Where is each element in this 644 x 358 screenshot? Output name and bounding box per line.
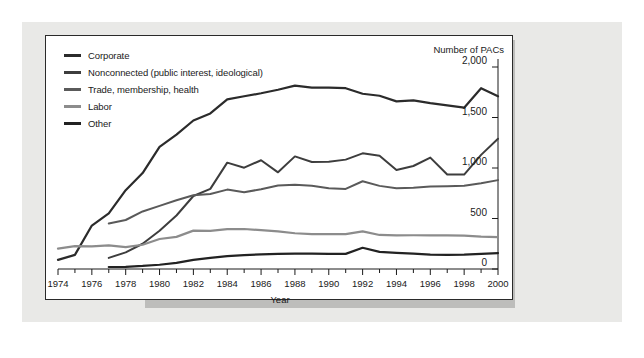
page-root: CorporateNonconnected (public interest, …	[0, 0, 644, 358]
legend-swatch-icon	[64, 71, 81, 74]
x-tick-label: 2000	[481, 278, 515, 289]
series-line-trade-membership-health	[109, 180, 498, 223]
y-tick-label: 2,000	[462, 55, 487, 66]
x-tick-label: 1994	[379, 278, 413, 289]
x-axis-title: Year	[46, 294, 514, 305]
legend-item-label: Labor	[88, 101, 112, 112]
legend-item-label: Corporate	[88, 50, 129, 61]
y-tick-label: 1,000	[462, 156, 487, 167]
x-tick-label: 1980	[143, 278, 177, 289]
legend-item-label: Trade, membership, health	[88, 84, 199, 95]
x-tick-label: 1982	[176, 278, 210, 289]
x-tick-label: 1976	[75, 278, 109, 289]
x-tick-label: 1998	[447, 278, 481, 289]
legend-item-label: Other	[88, 118, 111, 129]
x-tick-label: 1992	[346, 278, 380, 289]
legend-item[interactable]: Nonconnected (public interest, ideologic…	[64, 65, 263, 80]
y-axis-title: Number of PACs	[433, 44, 504, 55]
legend-swatch-icon	[64, 105, 81, 108]
legend-swatch-icon	[64, 54, 81, 57]
legend-item[interactable]: Other	[64, 116, 263, 131]
y-axis-ticks	[492, 67, 498, 269]
legend-item[interactable]: Labor	[64, 99, 263, 114]
x-tick-label: 1978	[109, 278, 143, 289]
legend-item[interactable]: Corporate	[64, 48, 263, 63]
x-tick-label: 1988	[278, 278, 312, 289]
series-line-nonconnected-public-interest-ideological	[109, 139, 498, 258]
y-tick-label: 0	[481, 257, 487, 268]
x-tick-label: 1986	[244, 278, 278, 289]
legend-swatch-icon	[64, 88, 81, 91]
y-tick-label: 1,500	[462, 106, 487, 117]
legend-item[interactable]: Trade, membership, health	[64, 82, 263, 97]
x-tick-label: 1990	[312, 278, 346, 289]
x-axis-ticks	[58, 269, 498, 275]
x-tick-label: 1974	[41, 278, 75, 289]
series-line-labor	[58, 229, 498, 249]
series-line-other	[109, 248, 498, 267]
x-tick-label: 1984	[210, 278, 244, 289]
chart-figure-panel: CorporateNonconnected (public interest, …	[45, 35, 513, 300]
legend-item-label: Nonconnected (public interest, ideologic…	[88, 67, 263, 78]
y-tick-label: 500	[470, 207, 487, 218]
chart-legend: CorporateNonconnected (public interest, …	[64, 48, 263, 133]
legend-swatch-icon	[64, 122, 81, 125]
x-tick-label: 1996	[413, 278, 447, 289]
